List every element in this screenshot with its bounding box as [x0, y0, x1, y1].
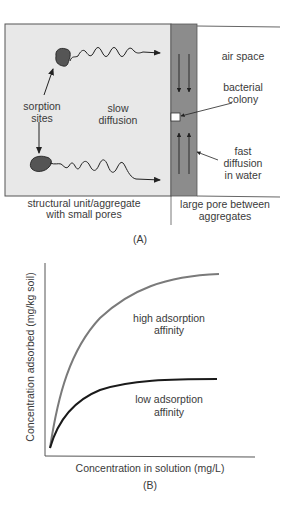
sorption-site-1	[56, 48, 70, 66]
label-fast-1: fast	[235, 145, 252, 157]
label-bacterial-1: bacterial	[223, 81, 263, 93]
curve-high-affinity	[50, 274, 219, 448]
label-low-2: affinity	[154, 406, 185, 418]
caption-b: (B)	[143, 479, 157, 491]
label-pore-2: aggregates	[199, 210, 252, 222]
label-high-1: high adsorption	[133, 312, 205, 324]
large-pore	[171, 24, 197, 196]
label-low-1: low adsorption	[135, 393, 203, 405]
label-fast-3: in water	[225, 169, 262, 181]
x-axis-label: Concentration in solution (mg/L)	[76, 462, 225, 474]
label-high-2: affinity	[154, 324, 185, 336]
x-axis	[45, 456, 255, 457]
label-bacterial-2: colony	[228, 93, 259, 105]
y-axis-label: Concentration adsorbed (mg/kg soil)	[24, 272, 36, 441]
label-sorption-1: sorption	[23, 100, 61, 112]
label-sorption-2: sites	[31, 112, 53, 124]
label-fast-2: diffusion	[224, 157, 263, 169]
fast-diffusion-pointer	[197, 152, 218, 160]
label-aggregate-2: with small pores	[45, 208, 121, 220]
figure-canvas: air space bacterial colony sorption site…	[0, 0, 287, 510]
panel-b: high adsorption affinity low adsorption …	[24, 263, 255, 491]
caption-a: (A)	[133, 233, 147, 245]
label-slow-2: diffusion	[99, 114, 138, 126]
curve-low-affinity	[50, 379, 217, 448]
panel-a: air space bacterial colony sorption site…	[5, 24, 280, 245]
air-bottom-border	[197, 196, 280, 197]
label-pore-1: large pore between	[180, 198, 270, 210]
label-slow-1: slow	[107, 102, 128, 114]
air-top-border	[197, 26, 280, 27]
bacterial-colony	[171, 113, 180, 121]
label-air-space: air space	[222, 50, 265, 62]
